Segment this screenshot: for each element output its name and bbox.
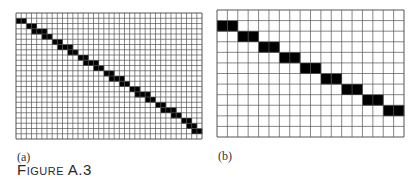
filled-cell: [176, 113, 181, 119]
filled-cell: [119, 81, 124, 87]
filled-cell: [150, 97, 155, 103]
filled-cell: [135, 87, 140, 93]
filled-cell: [57, 45, 62, 51]
filled-cell: [394, 105, 405, 116]
filled-cell: [259, 42, 270, 53]
filled-cell: [37, 29, 42, 35]
filled-cell: [140, 92, 145, 98]
filled-cell: [109, 76, 114, 82]
filled-cell: [52, 39, 57, 45]
filled-cell: [373, 95, 384, 106]
filled-cell: [321, 74, 332, 85]
filled-cell: [192, 129, 197, 135]
filled-cell: [269, 42, 280, 53]
filled-cell: [238, 31, 249, 42]
filled-cell: [145, 92, 150, 98]
panel-a-grid: [16, 13, 202, 139]
filled-cell: [32, 24, 37, 30]
filled-cell: [26, 24, 31, 30]
filled-cell: [125, 81, 130, 87]
filled-cell: [114, 76, 119, 82]
filled-cell: [166, 108, 171, 114]
filled-cell: [94, 66, 99, 72]
filled-cell: [32, 29, 37, 35]
filled-cell: [42, 29, 47, 35]
filled-cell: [279, 52, 290, 63]
filled-cell: [342, 84, 353, 95]
filled-cell: [119, 76, 124, 82]
filled-cell: [161, 102, 166, 108]
filled-cell: [192, 123, 197, 129]
filled-cell: [290, 52, 301, 63]
filled-cell: [57, 39, 62, 45]
filled-cell: [227, 21, 238, 32]
panel-b-label: (b): [218, 149, 232, 164]
filled-cell: [78, 55, 83, 61]
filled-cell: [248, 31, 259, 42]
filled-cell: [311, 63, 322, 74]
filled-cell: [217, 21, 228, 32]
figure-caption: Figure A.3: [17, 161, 92, 178]
filled-cell: [42, 34, 47, 40]
filled-cell: [161, 108, 166, 114]
filled-cell: [99, 66, 104, 72]
filled-cell: [68, 45, 73, 51]
filled-cell: [94, 60, 99, 66]
filled-cell: [88, 60, 93, 66]
filled-cell: [73, 50, 78, 56]
filled-cell: [21, 18, 26, 24]
filled-cell: [331, 74, 342, 85]
filled-cell: [16, 18, 21, 24]
filled-cell: [171, 113, 176, 119]
filled-cell: [300, 63, 311, 74]
filled-cell: [362, 95, 373, 106]
filled-cell: [135, 92, 140, 98]
filled-cell: [187, 123, 192, 129]
filled-cell: [145, 97, 150, 103]
filled-cell: [68, 50, 73, 56]
figure-canvas: [0, 0, 417, 180]
filled-cell: [63, 45, 68, 51]
filled-cell: [197, 129, 202, 135]
filled-cell: [104, 71, 109, 77]
filled-cell: [156, 102, 161, 108]
filled-cell: [83, 55, 88, 61]
filled-cell: [352, 84, 363, 95]
filled-cell: [171, 108, 176, 114]
panel-b-grid: [217, 10, 404, 137]
filled-cell: [130, 87, 135, 93]
filled-cell: [383, 105, 394, 116]
filled-cell: [181, 118, 186, 124]
filled-cell: [109, 71, 114, 77]
filled-cell: [187, 118, 192, 124]
filled-cell: [83, 60, 88, 66]
filled-cell: [47, 34, 52, 40]
